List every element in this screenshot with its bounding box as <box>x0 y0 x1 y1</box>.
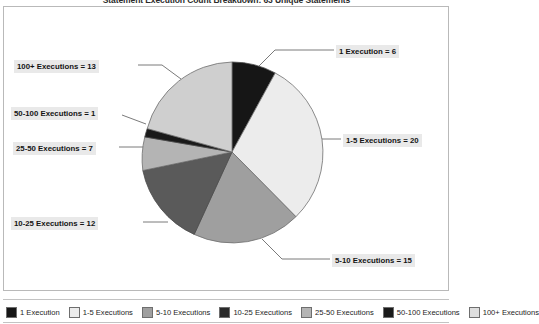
legend-swatch-icon <box>219 307 230 318</box>
callout-5-10-executions: 5-10 Executions = 15 <box>332 254 415 267</box>
legend-item-1-5-executions: 1-5 Executions <box>69 307 133 318</box>
legend-swatch-icon <box>469 307 480 318</box>
legend-item-50-100-executions: 50-100 Executions <box>383 307 460 318</box>
legend-item-100-plus-executions: 100+ Executions <box>469 307 539 318</box>
callout-10-25-executions: 10-25 Executions = 12 <box>11 217 98 230</box>
callout-1-5-executions: 1-5 Executions = 20 <box>343 134 422 147</box>
legend-label: 1-5 Executions <box>83 308 133 317</box>
legend-swatch-icon <box>6 307 17 318</box>
callout-50-100-executions: 50-100 Executions = 1 <box>11 107 98 120</box>
legend-swatch-icon <box>301 307 312 318</box>
legend-swatch-icon <box>383 307 394 318</box>
legend-label: 1 Execution <box>20 308 60 317</box>
legend-label: 25-50 Executions <box>315 308 374 317</box>
legend-label: 10-25 Executions <box>233 308 292 317</box>
legend-divider-bottom <box>3 322 449 323</box>
legend-swatch-icon <box>69 307 80 318</box>
legend-label: 50-100 Executions <box>397 308 460 317</box>
legend-item-1-execution: 1 Execution <box>6 307 60 318</box>
legend-item-5-10-executions: 5-10 Executions <box>142 307 210 318</box>
callout-1-execution: 1 Execution = 6 <box>336 45 399 58</box>
legend-item-25-50-executions: 25-50 Executions <box>301 307 374 318</box>
chart-legend: 1 Execution 1-5 Executions 5-10 Executio… <box>6 305 450 319</box>
legend-divider-top <box>3 299 449 300</box>
pie-slices <box>142 62 323 243</box>
callout-100-plus-executions: 100+ Executions = 13 <box>14 60 99 73</box>
legend-item-10-25-executions: 10-25 Executions <box>219 307 292 318</box>
callout-25-50-executions: 25-50 Executions = 7 <box>13 142 96 155</box>
legend-label: 100+ Executions <box>483 308 539 317</box>
legend-swatch-icon <box>142 307 153 318</box>
legend-label: 5-10 Executions <box>156 308 210 317</box>
